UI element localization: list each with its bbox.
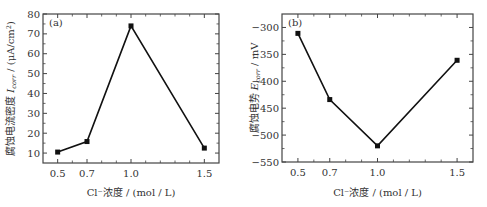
y-title-text: 腐蚀电势	[248, 90, 260, 133]
data-point	[202, 146, 207, 151]
x-axis-title: Cl⁻浓度 / (mol / L)	[87, 186, 176, 198]
y-tick-label: 20	[27, 128, 40, 139]
x-tick-label: 0.7	[322, 167, 338, 178]
data-point	[455, 58, 460, 63]
panel-a-corrosion-current: 0.50.71.01.51020304050607080(a)Cl⁻浓度 / (…	[4, 9, 219, 199]
y-tick-label: 30	[27, 108, 40, 119]
y-title-text: 腐蚀电流密度	[4, 93, 16, 156]
y-tick-label: 50	[27, 68, 40, 79]
data-point	[375, 143, 380, 148]
x-tick-label: 1.0	[370, 167, 386, 178]
plot-frame	[43, 14, 219, 163]
y-title-unit: / (μA/cm	[5, 29, 16, 75]
y-tick-label: 40	[27, 88, 40, 99]
x-tick-label: 0.5	[50, 168, 66, 179]
y-title-subscript: corr	[10, 74, 18, 89]
x-tick-label: 1.0	[123, 168, 139, 179]
x-tick-label: 1.5	[449, 167, 465, 178]
x-tick-label: 0.5	[290, 167, 306, 178]
series-line	[58, 26, 205, 152]
panel-b-corrosion-potential: 0.50.71.01.5−550−500−450−400−350−300(b)C…	[248, 14, 473, 198]
plot-frame	[282, 14, 473, 162]
x-tick-label: 1.5	[196, 168, 212, 179]
y-title-end: )	[5, 21, 16, 25]
y-tick-label: 80	[27, 9, 40, 20]
figure: 0.50.71.01.51020304050607080(a)Cl⁻浓度 / (…	[0, 0, 487, 207]
data-point	[327, 97, 332, 102]
series-line	[298, 33, 457, 145]
data-point	[55, 150, 60, 155]
y-tick-label: −300	[252, 22, 279, 33]
panel-label: (b)	[288, 17, 302, 28]
panel-label: (a)	[49, 17, 63, 28]
y-tick-label: 60	[27, 48, 40, 59]
data-point	[295, 31, 300, 36]
y-axis-title: 腐蚀电流密度 Icorr / (μA/cm2)	[4, 21, 18, 156]
y-tick-label: 10	[27, 148, 40, 159]
y-axis-title: 腐蚀电势 Ecorr / mV	[248, 42, 262, 133]
y-tick-label: −550	[252, 157, 279, 168]
y-tick-label: 70	[27, 28, 40, 39]
data-point	[129, 23, 134, 28]
y-title-unit: / mV	[249, 42, 260, 69]
x-tick-label: 0.7	[79, 168, 95, 179]
data-point	[85, 139, 90, 144]
y-title-subscript: corr	[254, 68, 262, 83]
x-axis-title: Cl⁻浓度 / (mol / L)	[333, 186, 422, 198]
